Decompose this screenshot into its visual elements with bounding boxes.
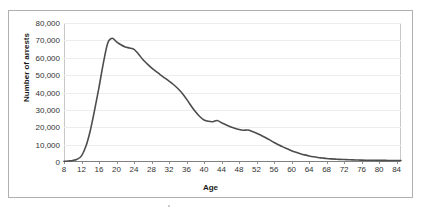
x-axis-tick-mark bbox=[99, 162, 100, 164]
y-axis-tick-label: 60,000 bbox=[36, 53, 60, 62]
x-axis-tick-label: 44 bbox=[217, 165, 226, 174]
x-axis-tick-label: 20 bbox=[112, 165, 121, 174]
x-axis-tick-label: 48 bbox=[235, 165, 244, 174]
x-axis-tick-label: 40 bbox=[200, 165, 209, 174]
x-axis-tick-mark bbox=[362, 162, 363, 164]
x-axis-tick-label: 36 bbox=[182, 165, 191, 174]
x-axis-tick-mark bbox=[257, 162, 258, 164]
y-axis-title: Number of arrests bbox=[22, 13, 31, 123]
x-axis-title: Age bbox=[9, 183, 412, 192]
x-axis-tick-label: 52 bbox=[252, 165, 261, 174]
y-axis-tick-label: 40,000 bbox=[36, 88, 60, 97]
x-axis-tick-label: 56 bbox=[270, 165, 279, 174]
x-axis-tick-mark bbox=[169, 162, 170, 164]
y-axis-tick-label: 10,000 bbox=[36, 140, 60, 149]
x-axis-tick-label: 28 bbox=[147, 165, 156, 174]
x-axis-tick-label: 76 bbox=[357, 165, 366, 174]
x-axis-tick-mark bbox=[82, 162, 83, 164]
x-axis-tick-mark bbox=[64, 162, 65, 164]
chart-inner-area: Number of arrests 010,00020,00030,00040,… bbox=[9, 11, 412, 197]
x-axis-tick-mark bbox=[134, 162, 135, 164]
y-axis-tick-label: 70,000 bbox=[36, 36, 60, 45]
x-axis-tick-label: 68 bbox=[322, 165, 331, 174]
x-axis-tick-mark bbox=[117, 162, 118, 164]
x-axis-tick-label: 16 bbox=[95, 165, 104, 174]
x-axis-tick-mark bbox=[344, 162, 345, 164]
y-axis-tick-label: 80,000 bbox=[36, 19, 60, 28]
x-axis-tick-mark bbox=[204, 162, 205, 164]
plot-area: 010,00020,00030,00040,00050,00060,00070,… bbox=[64, 23, 401, 162]
page-artifact-speck bbox=[168, 205, 170, 207]
x-axis-tick-mark bbox=[187, 162, 188, 164]
x-axis-tick-label: 84 bbox=[392, 165, 401, 174]
x-axis-tick-label: 80 bbox=[375, 165, 384, 174]
x-axis-tick-label: 32 bbox=[165, 165, 174, 174]
x-axis-tick-mark bbox=[309, 162, 310, 164]
x-axis-tick-mark bbox=[152, 162, 153, 164]
x-axis-tick-mark bbox=[239, 162, 240, 164]
x-axis-tick-mark bbox=[274, 162, 275, 164]
data-series-svg bbox=[64, 23, 401, 162]
x-axis-tick-label: 64 bbox=[305, 165, 314, 174]
chart-container: Number of arrests 010,00020,00030,00040,… bbox=[8, 10, 413, 198]
x-axis-tick-label: 8 bbox=[62, 165, 66, 174]
x-axis-tick-label: 24 bbox=[130, 165, 139, 174]
y-axis-tick-label: 0 bbox=[56, 158, 60, 167]
x-axis-tick-mark bbox=[327, 162, 328, 164]
x-axis-tick-mark bbox=[292, 162, 293, 164]
x-axis-tick-mark bbox=[379, 162, 380, 164]
x-axis-tick-mark bbox=[222, 162, 223, 164]
y-axis-tick-label: 30,000 bbox=[36, 105, 60, 114]
x-axis-tick-mark bbox=[397, 162, 398, 164]
x-axis-tick-label: 12 bbox=[77, 165, 86, 174]
y-axis-tick-label: 20,000 bbox=[36, 123, 60, 132]
x-axis-tick-label: 60 bbox=[287, 165, 296, 174]
x-axis-tick-label: 72 bbox=[340, 165, 349, 174]
arrests-by-age-line bbox=[64, 38, 401, 161]
y-axis-tick-label: 50,000 bbox=[36, 71, 60, 80]
